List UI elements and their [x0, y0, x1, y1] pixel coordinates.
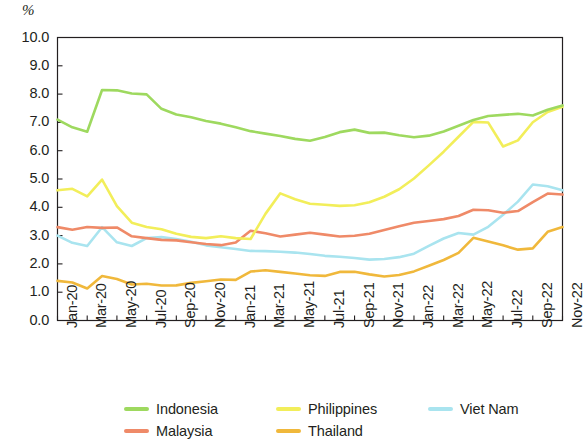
x-tick-label: Jan-21	[242, 284, 258, 327]
legend-swatch-icon	[276, 407, 301, 411]
y-tick-label: 10.0	[5, 29, 49, 45]
y-tick-label: 5.0	[5, 170, 49, 186]
y-tick-label: 6.0	[5, 142, 49, 158]
series-line-indonesia	[58, 90, 563, 141]
y-tick-label: 7.0	[5, 113, 49, 129]
x-tick-label: Sep-22	[539, 282, 555, 328]
x-tick-label: Nov-21	[390, 282, 406, 328]
plot-frame	[58, 38, 563, 321]
legend-label: Thailand	[308, 423, 363, 439]
series-line-malaysia	[58, 194, 563, 246]
y-tick-label: 3.0	[5, 227, 49, 243]
x-tick-label: Mar-21	[271, 283, 287, 328]
x-tick-label: Sep-21	[361, 282, 377, 328]
legend-item-philippines[interactable]: Philippines	[276, 401, 428, 417]
x-tick-label: Nov-22	[569, 282, 585, 328]
y-axis-ticks	[58, 66, 63, 292]
legend-swatch-icon	[428, 407, 453, 411]
series-line-philippines	[58, 107, 563, 239]
y-tick-label: 0.0	[5, 312, 49, 328]
x-tick-label: Nov-20	[212, 282, 228, 328]
x-tick-label: Sep-20	[182, 282, 198, 328]
x-tick-label: Jul-22	[509, 289, 525, 327]
legend-swatch-icon	[124, 429, 149, 433]
legend-item-thailand[interactable]: Thailand	[276, 423, 428, 439]
legend-item-indonesia[interactable]: Indonesia	[124, 401, 276, 417]
x-tick-label: Jan-22	[420, 284, 436, 327]
y-tick-label: 2.0	[5, 255, 49, 271]
x-tick-label: Jul-21	[331, 289, 347, 327]
legend-label: Indonesia	[156, 401, 218, 417]
y-tick-label: 8.0	[5, 85, 49, 101]
legend-label: Malaysia	[156, 423, 212, 439]
x-tick-label: Jan-20	[64, 284, 80, 327]
x-tick-label: Jul-20	[153, 289, 169, 327]
legend-label: Viet Nam	[460, 401, 519, 417]
y-tick-label: 9.0	[5, 57, 49, 73]
y-tick-label: 1.0	[5, 283, 49, 299]
y-tick-label: 4.0	[5, 198, 49, 214]
legend-item-malaysia[interactable]: Malaysia	[124, 423, 276, 439]
data-series-group	[58, 90, 563, 288]
legend-swatch-icon	[276, 429, 301, 433]
x-tick-label: May-20	[123, 280, 139, 327]
x-tick-label: May-22	[479, 280, 495, 327]
x-tick-label: May-21	[301, 280, 317, 327]
x-tick-label: Mar-22	[450, 283, 466, 328]
legend-item-viet-nam[interactable]: Viet Nam	[428, 401, 558, 417]
legend-swatch-icon	[124, 407, 149, 411]
x-tick-label: Mar-20	[93, 283, 109, 328]
chart-legend: IndonesiaPhilippinesViet NamMalaysiaThai…	[124, 398, 564, 442]
legend-label: Philippines	[308, 401, 377, 417]
